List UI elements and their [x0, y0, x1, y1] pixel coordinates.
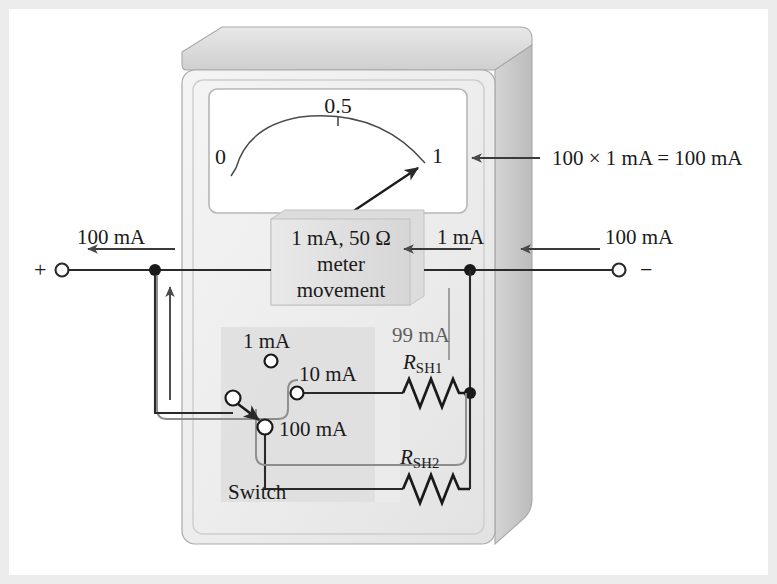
- reading-annotation: 100 × 1 mA = 100 mA: [552, 148, 743, 169]
- resistor-rsh1-name: R: [403, 350, 416, 374]
- movement-spec-line2: meter: [317, 254, 365, 275]
- meter-body-side: [495, 45, 532, 544]
- switch-label-10ma: 10 mA: [299, 364, 357, 385]
- switch-common-pole: [226, 391, 241, 406]
- switch-panel: [221, 327, 400, 502]
- label-right-current: 100 mA: [605, 227, 673, 248]
- resistor-rsh2-label: RSH2: [400, 447, 440, 471]
- switch-contact-1ma: [265, 355, 278, 368]
- movement-spec-line3: movement: [297, 280, 386, 301]
- scale-label-half: 0.5: [324, 95, 352, 117]
- movement-spec-line1: 1 mA, 50 Ω: [291, 228, 391, 249]
- label-movement-current: 1 mA: [437, 227, 484, 248]
- resistor-rsh2-sub: SH2: [413, 455, 440, 471]
- scale-label-0: 0: [215, 146, 226, 168]
- terminal-negative-label: −: [640, 259, 652, 281]
- figure-canvas: 0 0.5 1 100 × 1 mA = 100 mA 100 mA 100 m…: [0, 0, 777, 584]
- switch-label: Switch: [228, 482, 286, 503]
- label-left-current: 100 mA: [77, 227, 145, 248]
- resistor-rsh2-name: R: [400, 445, 413, 469]
- switch-label-1ma: 1 mA: [243, 331, 290, 352]
- terminal-positive-label: +: [34, 259, 46, 281]
- meter-body-top: [182, 27, 532, 70]
- terminal-positive: [56, 264, 69, 277]
- switch-label-100ma: 100 mA: [279, 419, 347, 440]
- label-shunt-current: 99 mA: [392, 325, 450, 346]
- switch-contact-10ma: [291, 387, 304, 400]
- scale-label-1: 1: [432, 145, 443, 167]
- resistor-rsh1-label: RSH1: [403, 352, 443, 376]
- resistor-rsh1-sub: SH1: [416, 360, 443, 376]
- circuit-diagram-svg: [0, 0, 777, 584]
- junction-left: [149, 264, 161, 276]
- terminal-negative: [613, 264, 626, 277]
- switch-contact-100ma: [258, 420, 273, 435]
